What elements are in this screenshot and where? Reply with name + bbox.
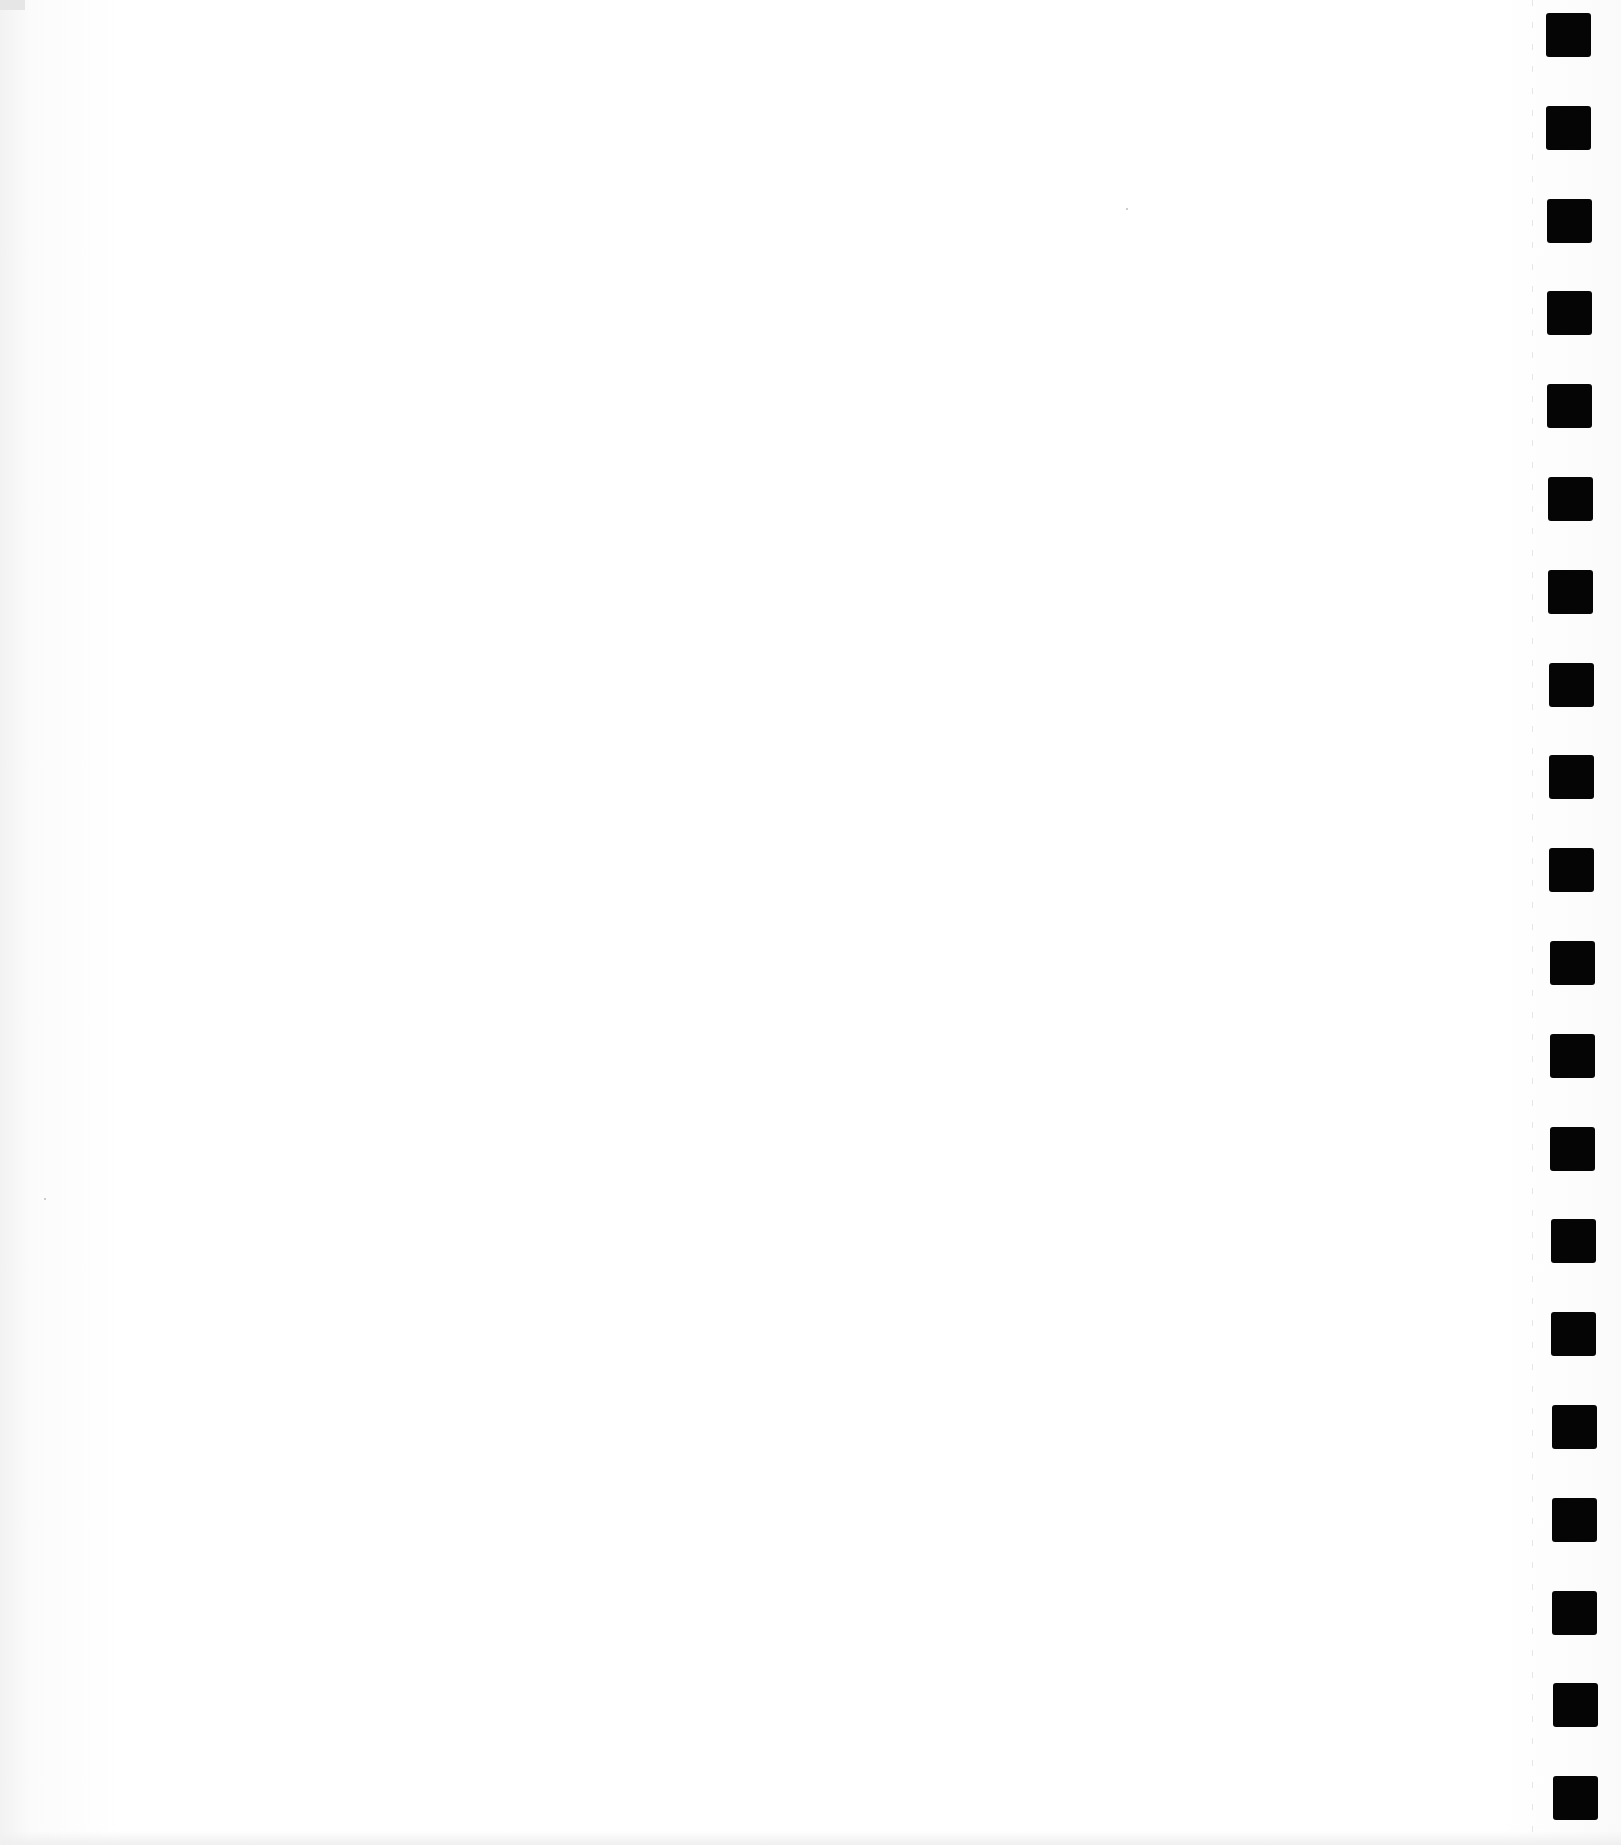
feed-hole-square: [1551, 1312, 1596, 1356]
feed-hole-square: [1549, 755, 1594, 799]
feed-hole-square: [1549, 848, 1594, 892]
feed-hole-square: [1550, 1127, 1595, 1171]
feed-hole-square: [1552, 1405, 1597, 1449]
feed-hole-square: [1547, 291, 1592, 335]
feed-hole-square: [1549, 663, 1594, 707]
tractor-feed-holes: [0, 0, 1621, 1845]
feed-hole-square: [1551, 1219, 1596, 1263]
feed-hole-square: [1547, 384, 1592, 428]
feed-hole-square: [1550, 941, 1595, 985]
feed-hole-square: [1552, 1591, 1597, 1635]
feed-hole-square: [1547, 199, 1592, 243]
feed-hole-square: [1548, 570, 1593, 614]
feed-hole-square: [1548, 477, 1593, 521]
feed-hole-square: [1552, 1498, 1597, 1542]
scan-bottom-shadow: [0, 1831, 1621, 1845]
feed-hole-square: [1553, 1776, 1598, 1820]
feed-hole-square: [1550, 1034, 1595, 1078]
blank-page: [0, 0, 1621, 1845]
feed-hole-square: [1546, 106, 1591, 150]
feed-hole-square: [1553, 1683, 1598, 1727]
feed-hole-square: [1546, 13, 1591, 57]
